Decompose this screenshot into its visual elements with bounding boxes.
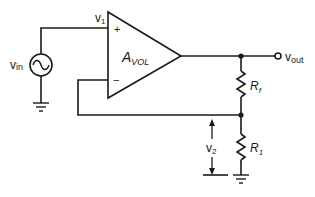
- ground-icon: [33, 103, 49, 111]
- circuit-diagram: + − v1 AVOL vin vout Rf R1 v2: [0, 0, 315, 197]
- resistor-r1-icon: [237, 134, 245, 160]
- minus-input-label: −: [113, 74, 119, 86]
- v1-label: v1: [95, 11, 106, 26]
- resistor-rf-icon: [237, 71, 245, 97]
- output-terminal-icon: [275, 53, 281, 59]
- plus-input-label: +: [114, 23, 120, 35]
- v2-label: v2: [206, 141, 217, 156]
- wire-input: [41, 28, 108, 54]
- ac-source-icon: [30, 54, 52, 76]
- junction-dot-output: [238, 53, 243, 58]
- ground-icon: [233, 175, 249, 183]
- r1-label: R1: [250, 141, 263, 157]
- junction-dot-feedback: [238, 112, 243, 117]
- rf-label: Rf: [250, 79, 262, 95]
- opamp-gain-label: AVOL: [121, 49, 149, 67]
- wire-feedback: [78, 80, 241, 115]
- vout-label: vout: [285, 50, 304, 65]
- vin-label: vin: [10, 58, 23, 72]
